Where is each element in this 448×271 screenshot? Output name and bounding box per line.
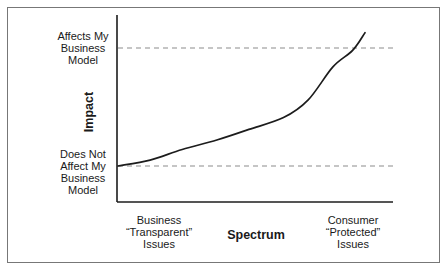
y-axis-title: Impact — [83, 72, 97, 152]
figure-canvas: Affects My Business Model Impact Does No… — [0, 0, 448, 271]
x-axis-title: Spectrum — [206, 229, 306, 242]
y-axis-low-label: Does Not Affect My Business Model — [23, 148, 143, 196]
impact-curve — [118, 33, 365, 166]
x-axis-right-label: Consumer “Protected” Issues — [293, 214, 413, 250]
x-axis-left-label: Business “Transparent” Issues — [99, 214, 219, 250]
y-axis-high-label: Affects My Business Model — [23, 30, 143, 66]
reference-dashed-lines — [118, 48, 393, 166]
